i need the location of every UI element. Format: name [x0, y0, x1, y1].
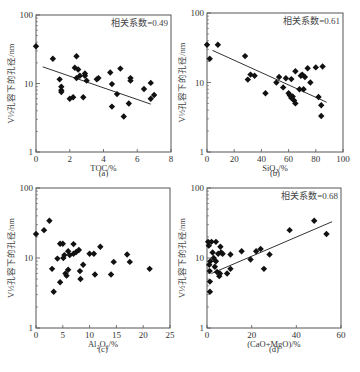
data-point: [127, 259, 133, 265]
panel-c: 1101000510152025Al₂O₃/%(c)V½孔容下的孔径/nm: [6, 183, 175, 354]
panel-b: 110100020406080100SiO₂/%(b)V½孔容下的孔径/nm相关…: [177, 8, 350, 178]
data-point: [107, 69, 113, 75]
x-tick-label: 8: [169, 154, 174, 164]
y-axis-label: V½孔容下的孔径/nm: [177, 42, 187, 122]
data-point: [121, 113, 127, 119]
data-point: [56, 76, 62, 82]
y-tick-label: 10: [195, 78, 205, 88]
data-point: [124, 251, 130, 257]
data-point: [73, 53, 79, 59]
data-point: [307, 79, 313, 85]
data-point: [318, 102, 324, 108]
data-point: [108, 271, 114, 277]
data-point: [109, 103, 115, 109]
data-point: [283, 75, 289, 81]
data-point: [77, 276, 83, 282]
data-point: [204, 41, 210, 47]
x-tick-label: 25: [166, 330, 176, 340]
x-tick-label: 0: [34, 330, 39, 340]
data-point: [323, 231, 329, 237]
data-point: [92, 271, 98, 277]
y-tick-label: 100: [20, 183, 34, 193]
x-tick-label: 0: [205, 154, 210, 164]
data-point: [227, 251, 233, 257]
trend-line: [211, 222, 332, 274]
data-point: [111, 259, 117, 265]
plot-frame: [207, 188, 341, 328]
data-point: [286, 227, 292, 233]
data-point: [57, 279, 63, 285]
panel-label: (d): [269, 344, 279, 354]
panel-label: (c): [98, 344, 108, 354]
y-tick-label: 10: [195, 253, 205, 263]
panel-label: (a): [99, 168, 109, 178]
data-point: [209, 249, 215, 255]
data-point: [292, 68, 298, 74]
data-point: [266, 251, 272, 257]
y-tick-label: 100: [191, 183, 205, 193]
x-tick-label: 6: [135, 154, 140, 164]
data-point: [54, 255, 60, 261]
data-point: [280, 84, 286, 90]
data-point: [213, 239, 219, 245]
trend-line: [43, 67, 151, 104]
data-point: [80, 94, 86, 100]
data-point: [217, 244, 223, 250]
y-tick-label: 100: [20, 10, 34, 20]
data-point: [245, 76, 251, 82]
data-point: [215, 41, 221, 47]
y-tick-label: 1: [29, 147, 34, 157]
x-tick-label: 5: [61, 330, 66, 340]
data-point: [33, 43, 39, 49]
data-point: [80, 262, 86, 268]
y-axis-label: V½孔容下的孔径/nm: [177, 218, 187, 298]
data-point: [288, 76, 294, 82]
data-point: [33, 231, 39, 237]
y-axis-label: V½孔容下的孔径/nm: [6, 43, 16, 123]
data-point: [126, 100, 132, 106]
x-tick-label: 2: [68, 154, 73, 164]
data-point: [304, 65, 310, 71]
data-point: [300, 86, 306, 92]
x-tick-label: 100: [336, 154, 350, 164]
data-point: [262, 90, 268, 96]
data-point: [117, 65, 123, 71]
correlation-annotation: 相关系数=0.68: [281, 190, 338, 201]
data-point: [242, 53, 248, 59]
y-tick-label: 1: [200, 323, 205, 333]
data-point: [109, 81, 115, 87]
x-tick-label: 0: [34, 154, 39, 164]
data-point: [319, 63, 325, 69]
y-tick-label: 1: [200, 147, 205, 157]
data-point: [91, 251, 97, 257]
data-point: [207, 289, 213, 295]
data-point: [146, 266, 152, 272]
data-point: [311, 218, 317, 224]
figure-canvas: 11010002468TOC/%(a)V½孔容下的孔径/nm相关系数=0.491…: [0, 0, 360, 372]
trend-line: [212, 50, 326, 102]
y-axis-label: V½孔容下的孔径/nm: [6, 218, 16, 298]
correlation-annotation: 相关系数=0.61: [283, 15, 340, 26]
data-point: [49, 266, 55, 272]
panel-a: 11010002468TOC/%(a)V½孔容下的孔径/nm相关系数=0.49: [6, 10, 174, 178]
x-tick-label: 20: [139, 330, 149, 340]
data-point: [238, 248, 244, 254]
data-point: [313, 64, 319, 70]
x-tick-label: 0: [205, 330, 210, 340]
data-point: [97, 244, 103, 250]
data-point: [261, 266, 267, 272]
data-point: [70, 241, 76, 247]
x-tick-label: 80: [311, 154, 321, 164]
y-tick-label: 10: [24, 79, 34, 89]
data-point: [50, 56, 56, 62]
data-point: [141, 86, 147, 92]
y-tick-label: 100: [191, 8, 205, 18]
panel-d: 1101000204060(CaO+MgO)/%(d)V½孔容下的孔径/nm相关…: [177, 183, 346, 354]
data-point: [224, 270, 230, 276]
data-point: [318, 113, 324, 119]
correlation-annotation: 相关系数=0.49: [111, 17, 168, 28]
x-tick-label: 60: [337, 330, 347, 340]
data-point: [148, 80, 154, 86]
panel-label: (b): [270, 168, 280, 178]
data-point: [41, 227, 47, 233]
